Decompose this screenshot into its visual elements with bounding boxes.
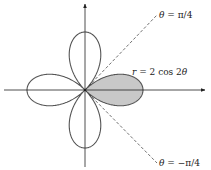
lower-ray-label: θ = −π/4 <box>159 158 200 168</box>
curve-equation-label: r = 2 cos 2θ <box>132 67 188 77</box>
upper-ray-label: θ = π/4 <box>159 10 193 20</box>
polar-rose-diagram: θ = π/4 r = 2 cos 2θ θ = −π/4 <box>0 0 211 170</box>
origin-point <box>84 89 87 92</box>
